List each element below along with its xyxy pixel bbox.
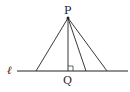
label-line-l: ℓ	[7, 64, 12, 77]
geometry-diagram: P Q ℓ	[0, 0, 130, 92]
right-angle-marker	[68, 66, 73, 71]
segment-p-to-right-1	[68, 18, 86, 71]
label-q: Q	[63, 74, 72, 87]
label-p: P	[64, 4, 72, 17]
segment-p-to-left	[36, 18, 68, 71]
segment-p-to-right-2	[68, 18, 107, 71]
